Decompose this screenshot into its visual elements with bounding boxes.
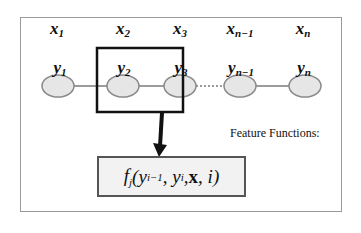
label-y3: y3 xyxy=(174,59,187,78)
node-y3 xyxy=(164,75,196,97)
feature-functions-label: Feature Functions: xyxy=(230,126,320,141)
label-y2: y2 xyxy=(117,59,130,78)
arrow-shaft xyxy=(160,113,162,146)
label-xn: xn xyxy=(296,20,311,39)
function-name: fj xyxy=(124,165,132,188)
label-x3: x3 xyxy=(173,20,187,39)
node-y1 xyxy=(42,75,74,97)
node-y2 xyxy=(107,75,139,97)
label-yn: yn xyxy=(297,59,311,78)
feature-function-box: fj(yi−1, yi, x, i) xyxy=(97,156,246,197)
node-yn xyxy=(289,75,321,97)
arrow-head-icon xyxy=(153,143,167,157)
label-yn-1: yn−1 xyxy=(228,59,254,78)
label-xn-1: xn−1 xyxy=(227,20,254,39)
label-x2: x2 xyxy=(116,20,130,39)
node-yn-1 xyxy=(224,75,256,97)
label-x1: x1 xyxy=(50,20,64,39)
label-y1: y1 xyxy=(53,59,66,78)
